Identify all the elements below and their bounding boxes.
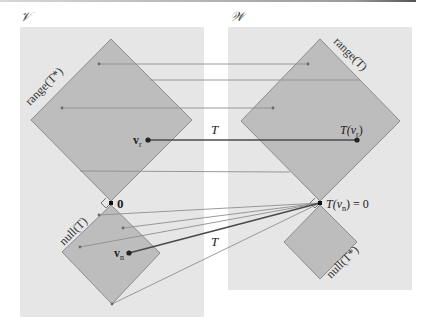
domain-zero-point xyxy=(109,201,113,205)
zero-label: 0 xyxy=(117,196,124,211)
codomain-title: 𝒲 xyxy=(230,9,247,24)
vr-point xyxy=(145,137,150,142)
sample-point xyxy=(111,303,114,306)
null-map-T-label: T xyxy=(211,234,219,249)
subspaces-diagram: 𝒱 𝒲 range(T*) null(T) range(T) null(T*) … xyxy=(0,0,428,330)
tvr-label: T(vr) xyxy=(340,123,363,139)
vn-point xyxy=(126,250,131,255)
sample-point xyxy=(98,63,101,66)
sample-point xyxy=(272,107,275,110)
sample-point xyxy=(307,63,310,66)
sample-point xyxy=(98,214,101,217)
sample-point xyxy=(61,107,64,110)
tvn-label: T(vn) = 0 xyxy=(326,197,369,213)
range-map-T-label: T xyxy=(211,122,219,137)
codomain-zero-point xyxy=(318,201,322,205)
sample-point xyxy=(122,227,125,230)
sample-point xyxy=(79,246,82,249)
domain-title: 𝒱 xyxy=(20,9,35,24)
